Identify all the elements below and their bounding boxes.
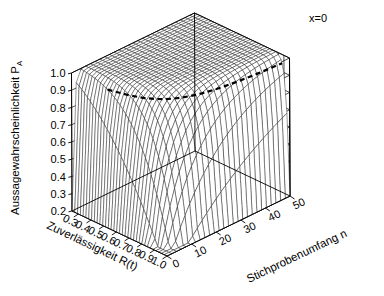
x-tick-label: 1.0: [150, 254, 169, 271]
z-tick-label: 0.9: [50, 84, 65, 96]
y-tick-label: 50: [291, 195, 307, 211]
y-axis-label-text: Stichprobenumfang n: [245, 227, 349, 285]
z-tick-label: 0.7: [50, 119, 65, 131]
plot-labels-layer: Aussagewahrscheinlichkeit PA Zuverlässig…: [0, 0, 384, 296]
svg-text:Aussagewahrscheinlichkeit PA: Aussagewahrscheinlichkeit PA: [9, 60, 24, 215]
z-tick-label: 0.6: [51, 136, 66, 148]
z-tick-label: 0.8: [50, 102, 65, 114]
y-tick-label: 0: [170, 257, 181, 270]
y-tick-label: 10: [192, 243, 208, 259]
z-axis-label: Aussagewahrscheinlichkeit PA: [9, 60, 24, 215]
z-tick-label: 0.4: [51, 171, 66, 183]
y-tick-label: 30: [241, 219, 257, 235]
annotation-x-equals-zero: x=0: [309, 12, 327, 24]
z-tick-label: 0.3: [51, 188, 66, 200]
z-tick-label: 1.0: [50, 67, 65, 79]
z-axis-label-text: Aussagewahrscheinlichkeit P: [9, 66, 21, 215]
y-tick-label: 20: [217, 231, 233, 247]
z-axis-label-subscript: A: [15, 60, 24, 66]
z-tick-label: 0.5: [51, 153, 66, 165]
figure-3d-surface-plot: Aussagewahrscheinlichkeit PA Zuverlässig…: [0, 0, 384, 296]
y-tick-label: 40: [266, 207, 282, 223]
y-axis-label: Stichprobenumfang n: [245, 227, 349, 285]
